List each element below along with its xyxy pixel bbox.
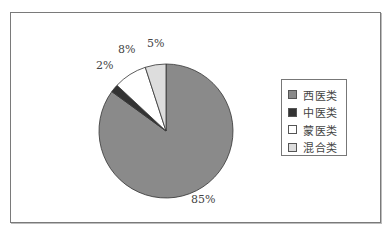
legend-swatch-icon (288, 108, 297, 117)
legend-swatch-icon (288, 143, 297, 152)
legend-item-hunhe: 混合类 (288, 139, 346, 157)
legend-swatch-icon (288, 125, 297, 134)
data-label-hunhe: 5% (147, 37, 164, 50)
legend-swatch-icon (288, 90, 297, 99)
legend-label: 中医类 (303, 104, 338, 120)
data-label-mengyi: 8% (118, 43, 135, 56)
legend-item-xiyi: 西医类 (288, 86, 346, 104)
legend-label: 西医类 (303, 87, 338, 103)
legend-label: 混合类 (303, 139, 338, 155)
legend-item-zhongyi: 中医类 (288, 104, 346, 122)
data-label-zhongyi: 2% (96, 59, 113, 72)
legend-item-mengyi: 蒙医类 (288, 121, 346, 139)
data-label-xiyi: 85% (191, 193, 215, 206)
legend-label: 蒙医类 (303, 122, 338, 138)
chart-legend: 西医类 中医类 蒙医类 混合类 (281, 79, 347, 156)
